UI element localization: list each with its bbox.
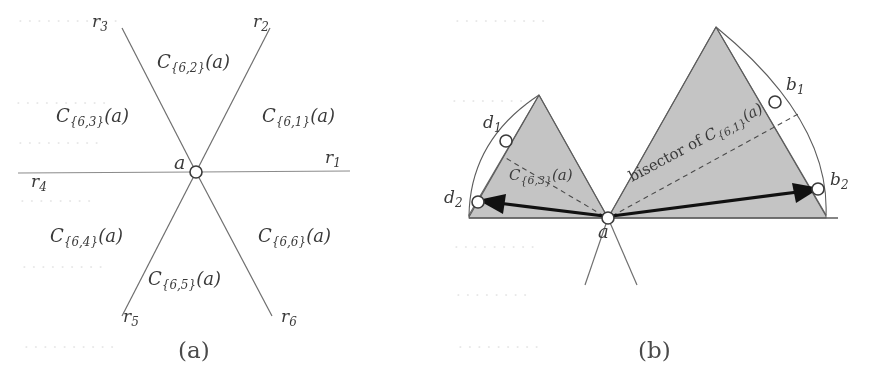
point-d2-base: d [444,187,455,207]
panel-b: d1 d2 b1 b2 a C{6,3}(a) bisector of C{6,… [444,27,849,363]
bleed-text: · · · · · · · · [456,286,528,304]
ray-label-r5-sub: 5 [131,315,139,329]
cone-label-6-5-sub: {6,5} [162,278,196,292]
cone-label-6-2-sub: {6,2} [171,61,205,75]
point-b2-base: b [830,169,841,189]
bleed-text: · · · · · · · · · [454,238,535,256]
cone-label-6-4: C{6,4}(a) [50,225,123,249]
cone-label-6-4-sub: {6,4} [64,235,98,249]
bleed-text: · · · · · · · · · [452,92,533,110]
bleed-text: · · · · · · · · · [22,258,103,276]
ray-r4-line [18,172,196,173]
panel-b-center-label: a [598,221,609,242]
ray-label-r5-text: r5 [123,306,139,329]
cone-label-6-1-sub: {6,1} [276,115,310,129]
point-b1-base: b [786,74,797,94]
cone-label-6-1: C{6,1}(a) [262,105,335,129]
panel-a-center-label: a [174,151,185,173]
cone-label-6-3-arg: (a) [104,105,129,126]
bleed-text: · · · · · · · · · · [455,12,546,30]
cone-label-6-3-base: C [56,105,70,126]
panel-a-caption: (a) [178,337,210,363]
point-b2-node [812,183,824,195]
lower-ray-right [608,218,637,285]
panel-a-center-node [190,166,202,178]
cone-label-6-2-base: C [157,51,171,72]
ray-label-r2-text: r2 [253,11,269,34]
ray-r1-line [196,171,350,172]
ray-label-r4-sub: 4 [38,180,47,194]
cone-label-6-5-base: C [148,268,162,289]
point-d2-label: d2 [444,187,463,210]
point-b2-label: b2 [830,169,849,192]
cone-label-6-2-arg: (a) [205,51,230,72]
cone-label-6-6-base: C [258,225,272,246]
page-bleed-layer: · · · · · · · · · · · · · · · · · · · · … [16,12,546,356]
ray-label-r3-sub: 3 [100,20,108,34]
panel-b-caption: (b) [638,337,671,363]
ray-r2-line [196,28,270,172]
figure-svg: · · · · · · · · · · · · · · · · · · · · … [0,0,871,384]
ray-label-r1-text: r1 [325,147,341,170]
cone-label-6-1-base: C [262,105,276,126]
ray-label-r6-text: r6 [281,306,297,329]
bleed-text: · · · · · · · · [20,192,92,210]
cone-label-6-6: C{6,6}(a) [258,225,331,249]
cone-label-6-6-arg: (a) [306,225,331,246]
cone-label-6-3-sub: {6,3} [70,115,104,129]
ray-label-r1: r1 r1 [325,147,341,170]
panel-b-left-cone-arg: (a) [552,166,573,184]
bleed-text: · · · · · · · · · [18,134,99,152]
point-d1-sub: 1 [494,121,502,135]
point-d1-node [500,135,512,147]
figure-container: · · · · · · · · · · · · · · · · · · · · … [0,0,871,384]
point-d2-node [472,196,484,208]
point-b1-label: b1 [786,74,805,97]
point-b1-sub: 1 [797,83,805,97]
cone-label-6-5-arg: (a) [196,268,221,289]
cone-label-6-5: C{6,5}(a) [148,268,221,292]
ray-label-r4-text: r4 [31,171,47,194]
panel-b-left-cone-sub: {6,3} [520,174,552,187]
point-d1-label: d1 [483,112,502,135]
point-b2-sub: 2 [840,178,849,192]
ray-label-r6-sub: 6 [289,315,297,329]
cone-label-6-4-base: C [50,225,64,246]
point-b1-node [769,96,781,108]
cone-label-6-6-sub: {6,6} [272,235,306,249]
point-d2-sub: 2 [454,196,463,210]
ray-label-r1-sub: 1 [333,156,341,170]
bleed-text: · · · · · · · · · · [24,338,115,356]
bleed-text: · · · · · · · · · [458,338,539,356]
panel-b-left-cone-base: C [509,166,521,184]
cone-label-6-1-arg: (a) [310,105,335,126]
ray-r5-line [122,172,196,316]
panel-a: a r1 r1 r2 r3 r4 r5 r6 C{6,2}(a) C{6,3}(… [18,11,350,363]
point-d1-base: d [483,112,494,132]
cone-label-6-4-arg: (a) [98,225,123,246]
cone-label-6-2: C{6,2}(a) [157,51,230,75]
ray-label-r2-sub: 2 [260,20,269,34]
